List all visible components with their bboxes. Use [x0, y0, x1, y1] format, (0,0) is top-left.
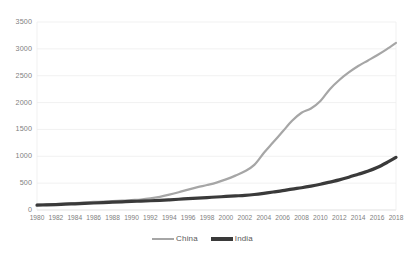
y-tick-label: 3500	[0, 18, 32, 26]
y-tick-label: 0	[0, 206, 32, 214]
y-tick-label: 2500	[0, 72, 32, 80]
y-tick-label: 1000	[0, 152, 32, 160]
x-tick-label: 2018	[385, 214, 405, 222]
line-chart: 0500100015002000250030003500 19801982198…	[0, 0, 405, 256]
y-tick-label: 500	[0, 179, 32, 187]
chart-legend: China India	[0, 231, 405, 247]
legend-line-china-icon	[152, 238, 174, 240]
y-tick-label: 3000	[0, 45, 32, 53]
series-line-india	[37, 157, 396, 205]
y-tick-label: 1500	[0, 125, 32, 133]
legend-item-india[interactable]: India	[211, 234, 253, 244]
series-lines	[37, 43, 396, 205]
legend-line-india-icon	[211, 237, 233, 240]
y-tick-label: 2000	[0, 99, 32, 107]
legend-label-china: China	[176, 234, 198, 244]
legend-item-china[interactable]: China	[152, 234, 198, 244]
legend-label-india: India	[235, 234, 253, 244]
